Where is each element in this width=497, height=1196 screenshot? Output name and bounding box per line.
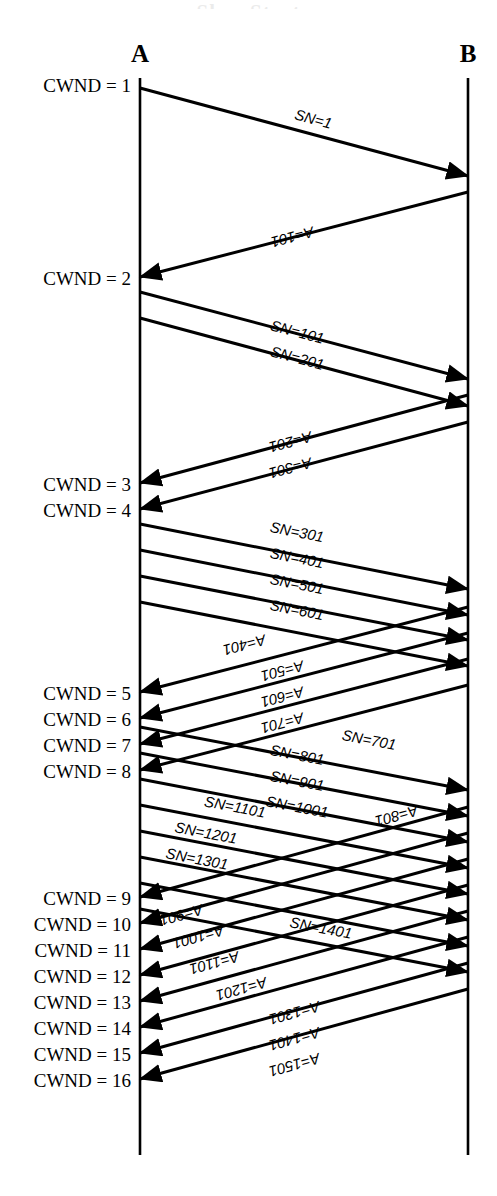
cwnd-label: CWND = 13 [34,992,131,1013]
data-segment-arrow [140,88,468,176]
cwnd-label: CWND = 10 [34,914,131,935]
ack-label: A=1401 [267,1024,323,1054]
ack-label: A=1301 [267,998,323,1028]
cwnd-label: CWND = 12 [34,966,131,987]
ack-label: A=301 [267,454,315,482]
cwnd-label: CWND = 7 [43,735,131,756]
ack-label: A=1501 [267,1050,323,1080]
cwnd-label: CWND = 9 [43,888,131,909]
ack-label: A=501 [259,657,307,685]
cwnd-label: CWND = 15 [34,1044,131,1065]
ack-label: A=601 [259,683,307,711]
cwnd-label: CWND = 14 [34,1018,132,1039]
ack-label: A=1001 [171,922,227,952]
data-segment-label: SN=301 [269,518,326,545]
cwnd-annotations: CWND = 1CWND = 2CWND = 3CWND = 4CWND = 5… [34,75,132,1091]
ack-label: A=701 [259,709,307,737]
tcp-slow-start-sequence-diagram: A B SN=1A=101SN=101SN=201A=201A=301SN=30… [0,0,497,1196]
cwnd-label: CWND = 5 [43,683,131,704]
cwnd-label: CWND = 2 [43,268,131,289]
data-segment-label: SN=101 [269,316,326,346]
ack-arrow [140,607,468,692]
data-segment-label: SN=701 [341,726,398,753]
data-segment-label: SN=201 [269,342,326,373]
host-labels: A B [131,40,476,67]
ack-label: A=901 [158,901,206,929]
data-segment-label: SN=1 [293,106,334,132]
cwnd-label: CWND = 8 [43,761,131,782]
cwnd-label: CWND = 16 [34,1070,131,1091]
cwnd-label: CWND = 3 [43,474,131,495]
cwnd-label: CWND = 11 [34,940,131,961]
data-segment-label: SN=901 [269,767,326,794]
host-label-a: A [131,40,149,67]
data-segment-label: SN=501 [269,570,326,597]
ack-label: A=401 [221,631,269,659]
data-segment-label: SN=601 [269,596,326,623]
data-segment-label: SN=801 [269,741,326,768]
cwnd-label: CWND = 4 [43,500,131,521]
host-label-b: B [460,40,477,67]
ack-label: A=101 [269,223,317,251]
data-segment-label: SN=401 [269,544,326,571]
cwnd-label: CWND = 1 [43,75,131,96]
ack-label: A=201 [267,428,315,456]
data-segment-label: SN=1001 [265,792,330,821]
cwnd-label: CWND = 6 [43,709,131,730]
